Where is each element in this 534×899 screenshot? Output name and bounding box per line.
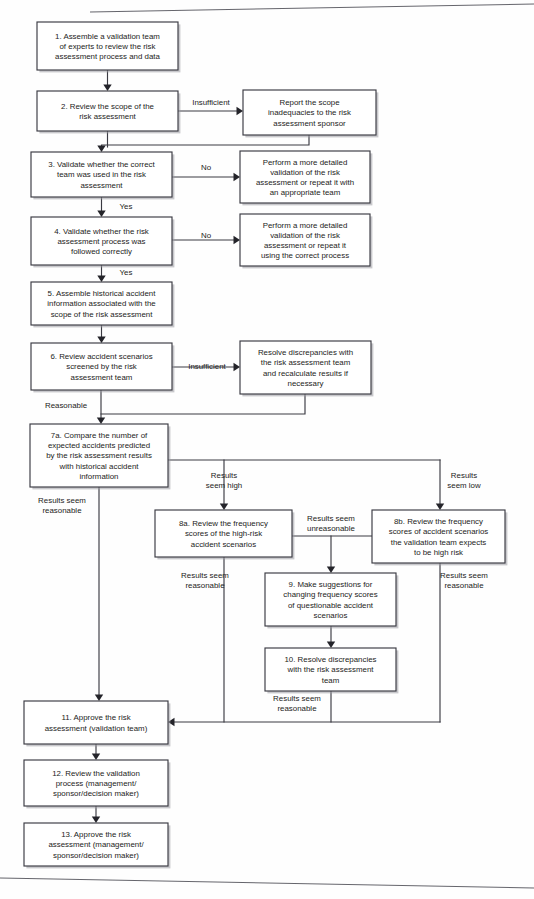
label-insufficient-step2: Insufficient bbox=[192, 98, 230, 107]
step-4-validate-process-followed[interactable]: 4. Validate whether the riskassessment p… bbox=[31, 217, 174, 267]
label-insufficient-step6: Insufficient bbox=[188, 362, 226, 371]
perform-detailed-validation-team-label: Perform a more detailedvalidation of the… bbox=[256, 158, 354, 198]
edge-2-to-report-arrowhead bbox=[237, 107, 244, 115]
step-13-approve-risk-assessment-management[interactable]: 13. Approve the riskassessment (manageme… bbox=[24, 823, 170, 868]
label-yes-step3: Yes bbox=[120, 202, 133, 211]
perform-detailed-validation-team[interactable]: Perform a more detailedvalidation of the… bbox=[240, 151, 372, 205]
edge-3-to-4-arrowhead bbox=[97, 211, 105, 218]
edge-11-to-12-arrowhead bbox=[92, 754, 100, 761]
scan-line-bottom bbox=[0, 878, 534, 888]
edge-6-to-7a-arrowhead bbox=[97, 418, 105, 425]
nodes-layer: 1. Assemble a validation teamof experts … bbox=[24, 22, 507, 868]
label-results-seem-reasonable-10: Results seemreasonable bbox=[273, 694, 321, 713]
edge-4-to-5-arrowhead bbox=[97, 276, 105, 283]
perform-detailed-validation-process-label: Perform a more detailedvalidation of the… bbox=[261, 221, 349, 261]
edge-unreasonable-to-9-arrowhead bbox=[327, 567, 335, 574]
step-11-approve-risk-assessment-validation-team[interactable]: 11. Approve the riskassessment (validati… bbox=[24, 701, 170, 746]
label-results-seem-reasonable-7a: Results seemreasonable bbox=[38, 496, 86, 515]
label-results-seem-unreasonable: Results seemunreasonable bbox=[307, 514, 355, 533]
label-no-step3: No bbox=[201, 163, 212, 172]
edge-7a-reasonable-to-11-arrowhead bbox=[95, 695, 103, 702]
perform-detailed-validation-process[interactable]: Perform a more detailedvalidation of the… bbox=[240, 214, 372, 268]
step-12-review-validation-process-label: 12. Review the validationprocess (manage… bbox=[52, 769, 140, 798]
flowchart-page: 1. Assemble a validation teamof experts … bbox=[0, 0, 534, 899]
step-12-review-validation-process[interactable]: 12. Review the validationprocess (manage… bbox=[24, 760, 170, 808]
step-13-approve-risk-assessment-management-label: 13. Approve the riskassessment (manageme… bbox=[48, 830, 144, 859]
step-2-review-scope-rect[interactable] bbox=[37, 91, 178, 131]
step-10-resolve-discrepancies-team[interactable]: 10. Resolve discrepancieswith the risk a… bbox=[265, 648, 398, 693]
scan-line-top bbox=[90, 4, 534, 12]
step-9-make-suggestions-frequency-scores[interactable]: 9. Make suggestions forchanging frequenc… bbox=[265, 573, 398, 628]
label-results-seem-reasonable-8b: Results seemreasonable bbox=[440, 571, 488, 590]
step-2-review-scope[interactable]: 2. Review the scope of therisk assessmen… bbox=[37, 91, 180, 133]
edge-report-back-to-3-arrowhead bbox=[97, 146, 105, 153]
edge-5-to-6-arrowhead bbox=[97, 337, 105, 344]
edge-resolve-back-to-7a bbox=[101, 394, 305, 414]
step-1-assemble-validation-team[interactable]: 1. Assemble a validation teamof experts … bbox=[37, 22, 180, 72]
step-5-assemble-historical-accident-info-label: 5. Assemble historical accidentinformati… bbox=[47, 289, 156, 318]
edge-branch-low-to-8b-arrowhead bbox=[436, 504, 444, 511]
edge-6-to-resolve-arrowhead bbox=[234, 363, 241, 371]
step-11-approve-risk-assessment-validation-team-rect[interactable] bbox=[24, 701, 168, 744]
step-1-assemble-validation-team-label: 1. Assemble a validation teamof experts … bbox=[55, 32, 160, 61]
label-results-seem-reasonable-8a: Results seemreasonable bbox=[181, 571, 229, 590]
report-scope-inadequacies[interactable]: Report the scopeinadequacies to the risk… bbox=[243, 90, 378, 137]
edge-branch-high-to-8a-arrowhead bbox=[220, 504, 228, 511]
edge-12-to-13-arrowhead bbox=[92, 817, 100, 824]
edge-3-to-perform-arrowhead bbox=[234, 173, 241, 181]
label-no-step4: No bbox=[201, 231, 212, 240]
edge-1-to-2-arrowhead bbox=[103, 85, 111, 92]
step-6-review-accident-scenarios[interactable]: 6. Review accident scenariosscreened by … bbox=[31, 343, 174, 392]
step-7a-compare-expected-accidents[interactable]: 7a. Compare the number ofexpected accide… bbox=[30, 424, 170, 489]
label-results-seem-high: Resultsseem high bbox=[206, 471, 242, 490]
flowchart-canvas: 1. Assemble a validation teamof experts … bbox=[0, 0, 534, 899]
label-yes-step4: Yes bbox=[120, 268, 133, 277]
edge-9-to-10-arrowhead bbox=[327, 642, 335, 649]
label-results-seem-low: Resultsseem low bbox=[447, 471, 481, 490]
step-8b-review-frequency-expected-high-risk[interactable]: 8b. Review the frequencyscores of accide… bbox=[372, 510, 507, 565]
step-3-validate-correct-team[interactable]: 3. Validate whether the correctteam was … bbox=[31, 152, 174, 199]
resolve-discrepancies-recalculate[interactable]: Resolve discrepancies withthe risk asses… bbox=[240, 341, 373, 396]
edge-4-to-perform-arrowhead bbox=[234, 236, 241, 244]
step-8a-review-frequency-high-risk[interactable]: 8a. Review the frequencyscores of the hi… bbox=[155, 510, 294, 559]
step-8a-review-frequency-high-risk-label: 8a. Review the frequencyscores of the hi… bbox=[179, 519, 268, 548]
step-5-assemble-historical-accident-info[interactable]: 5. Assemble historical accidentinformati… bbox=[31, 282, 174, 327]
report-scope-inadequacies-label: Report the scopeinadequacies to the risk… bbox=[268, 98, 351, 127]
label-reasonable-step6: Reasonable bbox=[45, 401, 88, 410]
